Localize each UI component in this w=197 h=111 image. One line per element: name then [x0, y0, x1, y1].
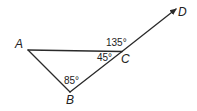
angle-label-interior-c-45: 45° [97, 52, 112, 63]
angle-label-exterior-135: 135° [106, 37, 127, 48]
vertex-label-c: C [121, 52, 130, 66]
vertex-label-a: A [14, 37, 23, 51]
angle-label-interior-b-85: 85° [64, 75, 79, 86]
vertex-label-b: B [66, 93, 74, 107]
vertex-label-d: D [178, 5, 187, 19]
triangle-diagram: A B C D 135° 45° 85° [0, 0, 197, 111]
ray-cd-arrow [122, 9, 176, 52]
